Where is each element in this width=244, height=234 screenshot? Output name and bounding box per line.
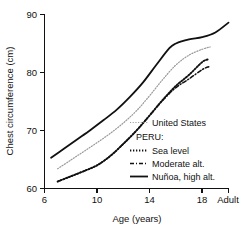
legend-group-heading-peru: PERU:	[136, 132, 164, 142]
chart-legend: United States PERU: Sea level Moderate a…	[130, 118, 215, 182]
chart-figure: 90 80 70 60 6 10 14 18 Adult Age (years)…	[0, 0, 244, 234]
chest-circumference-line-chart: 90 80 70 60 6 10 14 18 Adult Age (years)…	[0, 0, 244, 234]
x-axis-ticks	[45, 189, 229, 194]
y-tick-label-70: 70	[26, 125, 37, 136]
y-tick-label-80: 80	[26, 67, 37, 78]
legend-label-sea-level: Sea level	[152, 146, 189, 156]
y-axis-title: Chest circumference (cm)	[4, 47, 15, 156]
x-tick-label-18: 18	[197, 194, 208, 205]
y-tick-label-90: 90	[26, 9, 37, 20]
y-tick-label-60: 60	[26, 183, 37, 194]
series-group	[51, 23, 228, 182]
legend-label-moderate-alt: Moderate alt.	[152, 159, 205, 169]
x-tick-label-adult: Adult	[217, 194, 239, 205]
x-tick-label-14: 14	[144, 194, 155, 205]
legend-label-united-states: United States	[152, 118, 207, 128]
x-tick-label-6: 6	[42, 194, 47, 205]
legend-label-nunoa-high-alt: Nuñoa, high alt.	[152, 172, 215, 182]
y-axis-ticks	[40, 15, 45, 189]
x-axis-title: Age (years)	[112, 213, 161, 224]
x-tick-label-10: 10	[92, 194, 103, 205]
